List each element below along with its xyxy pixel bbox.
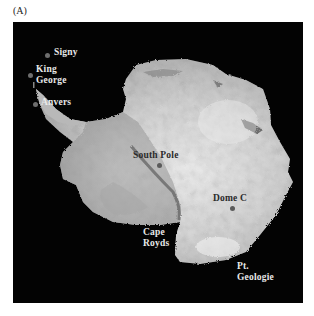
pt-geologie-label-line2: Geologie (237, 272, 274, 283)
anvers-label-text: Anvers (41, 97, 71, 107)
south-pole-marker (157, 163, 162, 168)
pt-geologie-label: Pt. Geologie (237, 261, 274, 283)
king-george-label: King George (36, 64, 67, 86)
cape-royds-label-line1: Cape (143, 227, 169, 238)
south-pole-label-text: South Pole (133, 150, 179, 160)
island-chain (33, 82, 35, 88)
antarctica-map: Signy King George Anvers South Pole Dome… (13, 22, 303, 303)
panel-label: (A) (13, 5, 27, 16)
anvers-label: Anvers (41, 97, 71, 108)
king-george-label-line1: King (36, 64, 67, 75)
dome-c-label-text: Dome C (213, 193, 247, 203)
king-george-label-line2: George (36, 75, 67, 86)
pt-geologie-label-line1: Pt. (237, 261, 274, 272)
signy-label-text: Signy (54, 47, 78, 57)
anvers-marker (33, 102, 38, 107)
signy-label: Signy (54, 47, 78, 58)
dome-c-label: Dome C (213, 193, 247, 204)
king-george-marker (28, 73, 33, 78)
south-pole-label: South Pole (133, 150, 179, 161)
signy-marker (45, 53, 50, 58)
cape-royds-label: Cape Royds (143, 227, 169, 249)
cape-royds-label-line2: Royds (143, 238, 169, 249)
dome-c-marker (230, 206, 235, 211)
